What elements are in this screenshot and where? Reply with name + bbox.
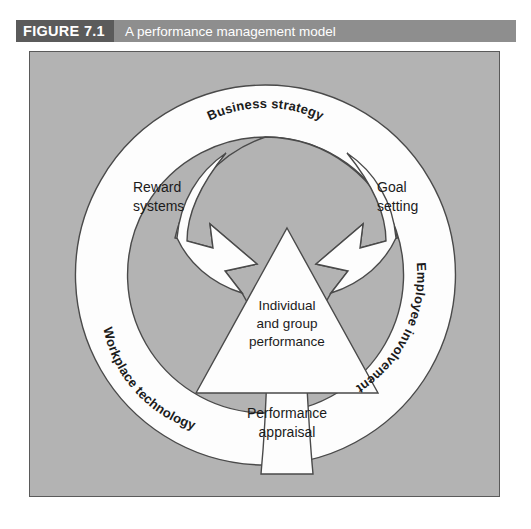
core-label-line3: performance bbox=[249, 334, 325, 349]
inner-label-performance-appraisal-line2: appraisal bbox=[259, 424, 316, 440]
inner-label-reward-systems-line1: Reward bbox=[133, 179, 181, 195]
performance-management-model-diagram: Business strategy Employee involvement W… bbox=[30, 52, 501, 498]
inner-label-performance-appraisal-line1: Performance bbox=[247, 405, 327, 421]
inner-label-reward-systems-line2: systems bbox=[133, 198, 184, 214]
core-label-line2: and group bbox=[257, 316, 318, 331]
figure-number: FIGURE 7.1 bbox=[16, 20, 114, 42]
core-label-line1: Individual bbox=[258, 298, 315, 313]
figure-diagram-panel: Business strategy Employee involvement W… bbox=[29, 51, 500, 497]
figure-title: A performance management model bbox=[114, 20, 516, 42]
figure-caption-bar: FIGURE 7.1 A performance management mode… bbox=[16, 20, 516, 42]
inner-label-goal-setting-line1: Goal bbox=[377, 179, 407, 195]
core-label: Individual and group performance bbox=[249, 298, 325, 349]
inner-label-goal-setting-line2: setting bbox=[377, 198, 418, 214]
